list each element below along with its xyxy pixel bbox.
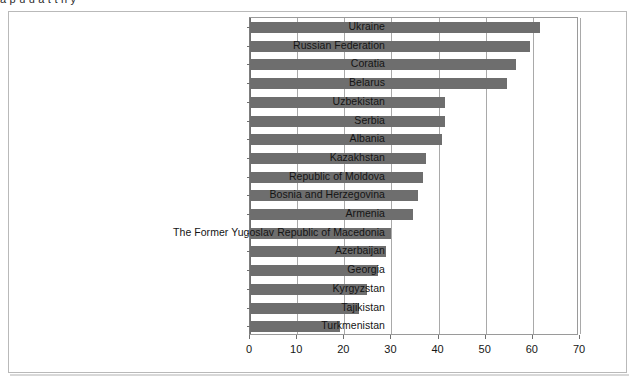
tick-mark-20 (343, 335, 344, 339)
category-label: Russian Federation (147, 40, 385, 51)
category-label: Ukraine (147, 21, 385, 32)
cut-off-caption-text: a p u u a t t n y (0, 0, 634, 9)
category-label: Turkmenistan (147, 320, 385, 331)
category-label: Republic of Moldova (147, 171, 385, 182)
category-label: Albania (147, 133, 385, 144)
tick-label-30: 30 (370, 344, 410, 355)
category-label: Serbia (147, 115, 385, 126)
tick-mark-70 (579, 335, 580, 339)
category-label: Bosnia and Herzegovina (147, 189, 385, 200)
tick-mark-10 (296, 335, 297, 339)
category-label: Coratia (147, 58, 385, 69)
tick-label-10: 10 (276, 344, 316, 355)
tick-label-50: 50 (465, 344, 505, 355)
category-label: Georgia (147, 264, 385, 275)
bar-chart: 010203040506070 UkraineRussian Federatio… (9, 12, 628, 374)
tick-mark-50 (485, 335, 486, 339)
category-label: Uzbekistan (147, 96, 385, 107)
caption-text: a p u u a t t n y (0, 0, 76, 5)
figure-frame: 010203040506070 UkraineRussian Federatio… (8, 11, 627, 373)
category-label: Kazakhstan (147, 152, 385, 163)
tick-label-40: 40 (418, 344, 458, 355)
tick-label-20: 20 (323, 344, 363, 355)
tick-mark-30 (390, 335, 391, 339)
gridline-70 (580, 18, 581, 334)
tick-label-0: 0 (229, 344, 269, 355)
category-label: Azerbaijan (147, 245, 385, 256)
category-label: Armenia (147, 208, 385, 219)
category-label: The Former Yugoslav Republic of Macedoni… (147, 227, 385, 238)
category-label: Belarus (147, 77, 385, 88)
category-label: Tajikistan (147, 302, 385, 313)
tick-mark-60 (532, 335, 533, 339)
tick-mark-0 (249, 335, 250, 339)
tick-label-60: 60 (512, 344, 552, 355)
figure-page: a p u u a t t n y 010203040506070 Ukrain… (0, 0, 634, 380)
tick-mark-40 (438, 335, 439, 339)
category-label: Kyrgyzstan (147, 283, 385, 294)
tick-label-70: 70 (559, 344, 599, 355)
